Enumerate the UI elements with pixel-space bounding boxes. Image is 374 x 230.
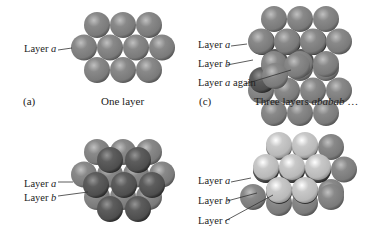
leader-line [231, 178, 251, 182]
leader-line [227, 60, 253, 65]
sphere-layer-b [125, 147, 151, 173]
sphere-layer-c [292, 177, 318, 203]
caption-one-layer: One layer [101, 96, 144, 107]
leader-line [231, 44, 247, 46]
sphere-layer-b [139, 172, 165, 198]
leader-line [58, 192, 88, 196]
sphere-layer-a-top [287, 6, 313, 32]
sphere-layer-b [97, 196, 123, 222]
sphere-layer-c [266, 177, 292, 203]
sphere-layer-a [318, 184, 344, 210]
caption-three-layers: Three layers ababab … [254, 96, 358, 107]
label-layer-a: Layer a [24, 44, 56, 55]
sphere-layer-a-again [262, 63, 288, 89]
label-layer-a: Layer a [24, 179, 56, 190]
sphere-layer-a [110, 12, 136, 38]
sphere-layer-b [111, 172, 137, 198]
panel-one-layer: Layer a (a) One layer [0, 0, 187, 115]
panel-two-layers: Layer a Layer b [0, 115, 187, 230]
label-layer-b: Layer b [198, 196, 230, 207]
label-layer-b: Layer b [198, 59, 230, 70]
sphere-layer-a-top [313, 51, 339, 77]
label-layer-a: Layer a [198, 40, 230, 51]
sphere-stack-ab [0, 115, 187, 230]
label-layer-c: Layer c [198, 216, 230, 227]
sphere-layer-a [136, 12, 162, 38]
sphere-layer-c [292, 132, 318, 158]
sphere-layer-a [84, 57, 110, 83]
sphere-layer-b [83, 172, 109, 198]
sphere-layer-a-top [313, 6, 339, 32]
sphere-layer-c [305, 154, 331, 180]
sphere-layer-a-top [300, 29, 326, 55]
sphere-layer-c [253, 154, 279, 180]
label-layer-b: Layer b [24, 193, 56, 204]
leader-line [58, 48, 72, 50]
sphere-layer-c [279, 154, 305, 180]
sphere-layer-a [71, 35, 97, 61]
sphere-layer-a [97, 35, 123, 61]
sphere-layer-a-top [248, 29, 274, 55]
sphere-layer-b [125, 196, 151, 222]
sphere-layer-a-top [274, 29, 300, 55]
panel-tag-c: (c) [199, 96, 211, 107]
panel-tag-a: (a) [23, 96, 35, 107]
sphere-layer-b [97, 147, 123, 173]
sphere-layer-a [136, 57, 162, 83]
sphere-layer-a [331, 157, 357, 183]
panel-three-layers-ababab: Layer a Layer b Layer a again (c) Three … [187, 0, 374, 115]
sphere-layer-a [84, 12, 110, 38]
sphere-layer-a [149, 35, 175, 61]
sphere-layer-a [123, 35, 149, 61]
panel-three-layers-abc: Layer a Layer b Layer c [187, 115, 374, 230]
label-layer-a-again: Layer a again [198, 78, 256, 89]
sphere-layer-a [110, 57, 136, 83]
label-layer-a: Layer a [198, 176, 230, 187]
sphere-layer-a-top [326, 29, 352, 55]
sphere-layer-a-top [261, 6, 287, 32]
sphere-stack-abc [187, 115, 374, 230]
sphere-layer-c [266, 132, 292, 158]
